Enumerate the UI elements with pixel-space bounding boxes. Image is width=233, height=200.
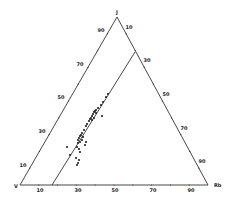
tick-label-left: 30 — [39, 128, 46, 134]
data-point — [66, 146, 68, 148]
tick-mark — [97, 50, 98, 51]
tick-mark — [153, 84, 154, 85]
tick-mark — [78, 84, 79, 85]
data-point — [76, 146, 78, 148]
tick-mark — [189, 151, 190, 152]
tick-label-left: 10 — [20, 162, 27, 168]
data-point — [86, 123, 88, 125]
data-point — [97, 107, 99, 109]
data-point — [81, 139, 83, 141]
data-point — [101, 115, 103, 117]
tick-mark — [171, 117, 172, 118]
data-point — [84, 144, 86, 146]
data-point — [77, 139, 79, 141]
data-point — [85, 125, 87, 127]
data-point — [82, 136, 84, 138]
tick-label-bottom: 50 — [112, 187, 119, 193]
tick-label-bottom: 70 — [150, 187, 157, 193]
tick-label-right: 50 — [163, 91, 170, 97]
data-point — [91, 115, 93, 117]
data-point — [79, 151, 81, 153]
tick-mark — [87, 67, 88, 68]
tick-label-bottom: 90 — [188, 187, 195, 193]
data-point — [91, 119, 93, 121]
data-point — [93, 117, 95, 119]
tick-label-right: 70 — [181, 125, 188, 131]
vertex-label-top: J — [115, 9, 118, 15]
vertex-labels: JVRb — [14, 9, 222, 189]
data-point — [93, 111, 95, 113]
data-point — [95, 112, 97, 114]
triangle-outline — [20, 17, 208, 185]
data-point — [105, 96, 107, 98]
tick-mark — [95, 184, 96, 185]
tick-mark — [38, 184, 39, 185]
tick-mark — [68, 100, 69, 101]
data-point — [92, 113, 94, 115]
tick-mark — [180, 134, 181, 135]
tick-mark — [57, 184, 58, 185]
data-point — [107, 93, 109, 95]
tick-label-left: 50 — [58, 94, 65, 100]
tick-label-bottom: 30 — [75, 187, 82, 193]
tick-label-right: 90 — [199, 158, 206, 164]
triangle-frame — [20, 17, 208, 185]
tick-mark — [29, 168, 30, 169]
data-point — [102, 101, 104, 103]
tick-mark — [135, 50, 136, 51]
data-point — [78, 159, 80, 161]
tick-mark — [107, 33, 108, 34]
tick-label-right: 10 — [126, 24, 133, 30]
tick-label-left: 90 — [98, 27, 105, 33]
data-point — [76, 164, 78, 166]
tick-labels: 907050301010305070901030507090 — [20, 24, 206, 193]
data-point — [88, 120, 90, 122]
tick-mark — [144, 67, 145, 68]
tick-label-right: 30 — [144, 57, 151, 63]
tick-marks — [29, 33, 199, 185]
data-point — [79, 141, 81, 143]
tick-mark — [39, 151, 40, 152]
vertex-label-bottom-left: V — [14, 183, 18, 189]
data-point — [78, 137, 80, 139]
data-point — [69, 154, 71, 156]
data-point — [81, 132, 83, 134]
data-point — [89, 118, 91, 120]
tick-mark — [189, 184, 190, 185]
tick-mark — [49, 134, 50, 135]
tick-mark — [113, 184, 114, 185]
data-point — [77, 142, 79, 144]
tick-mark — [198, 168, 199, 169]
tick-mark — [58, 117, 59, 118]
data-point — [79, 135, 81, 137]
tick-mark — [76, 184, 77, 185]
vertex-label-bottom-right: Rb — [214, 182, 222, 188]
tick-mark — [132, 184, 133, 185]
data-point — [75, 157, 77, 159]
tick-label-bottom: 10 — [37, 187, 44, 193]
tick-mark — [162, 100, 163, 101]
data-point — [85, 141, 87, 143]
tick-label-left: 70 — [77, 61, 84, 67]
data-point — [100, 104, 102, 106]
tick-mark — [170, 184, 171, 185]
data-point — [77, 162, 79, 164]
data-point — [83, 129, 85, 131]
tick-mark — [151, 184, 152, 185]
tick-mark — [126, 33, 127, 34]
data-point — [78, 148, 80, 150]
ternary-diagram: 907050301010305070901030507090 JVRb — [0, 0, 233, 200]
